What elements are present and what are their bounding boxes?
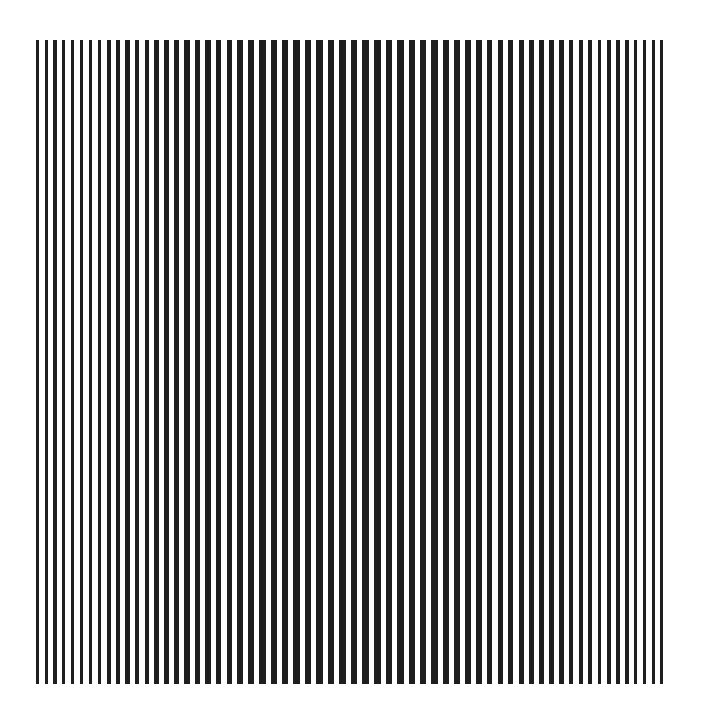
stripe	[259, 40, 265, 684]
stripe	[293, 40, 299, 684]
stripe	[454, 40, 460, 684]
artwork-canvas	[0, 0, 710, 726]
stripe	[386, 40, 393, 684]
stripe	[305, 40, 311, 684]
stripe	[420, 40, 426, 684]
stripe	[519, 40, 524, 684]
stripe	[145, 40, 150, 684]
stripe	[643, 40, 646, 684]
stripe	[569, 40, 573, 684]
stripe	[660, 40, 663, 684]
stripe	[598, 40, 602, 684]
stripe	[227, 40, 233, 684]
stripe	[431, 40, 437, 684]
stripe	[443, 40, 449, 684]
stripe	[36, 40, 39, 684]
stripe	[45, 40, 48, 684]
stripe	[248, 40, 254, 684]
stripe	[559, 40, 564, 684]
stripe	[616, 40, 620, 684]
stripe	[71, 40, 74, 684]
stripe	[397, 40, 403, 684]
stripe	[62, 40, 65, 684]
stripe	[508, 40, 513, 684]
stripe	[549, 40, 554, 684]
stripe	[476, 40, 482, 684]
stripe	[195, 40, 200, 684]
stripe	[498, 40, 503, 684]
stripe	[154, 40, 159, 684]
stripe	[237, 40, 243, 684]
stripe	[89, 40, 93, 684]
stripe	[328, 40, 335, 684]
stripe	[98, 40, 102, 684]
stripe	[216, 40, 222, 684]
stripe	[116, 40, 120, 684]
stripe	[409, 40, 415, 684]
stripe	[539, 40, 544, 684]
stripe	[607, 40, 611, 684]
stripe	[184, 40, 189, 684]
stripe	[271, 40, 277, 684]
stripe	[362, 40, 369, 684]
stripe	[80, 40, 84, 684]
stripe	[53, 40, 56, 684]
stripe	[351, 40, 358, 684]
stripe	[579, 40, 583, 684]
stripe	[465, 40, 471, 684]
stripe	[174, 40, 179, 684]
stripe	[374, 40, 381, 684]
stripe-field	[0, 0, 710, 726]
stripe	[125, 40, 129, 684]
stripe	[588, 40, 592, 684]
stripe	[634, 40, 637, 684]
stripe	[529, 40, 534, 684]
stripe	[316, 40, 323, 684]
stripe	[339, 40, 346, 684]
stripe	[135, 40, 139, 684]
stripe	[107, 40, 111, 684]
stripe	[205, 40, 210, 684]
stripe	[164, 40, 169, 684]
stripe	[487, 40, 493, 684]
stripe	[652, 40, 655, 684]
stripe	[625, 40, 629, 684]
stripe	[282, 40, 288, 684]
